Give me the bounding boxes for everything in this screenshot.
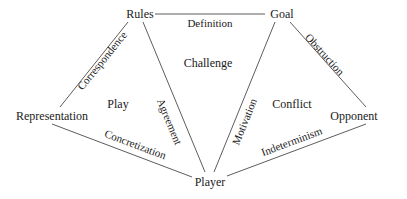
node-opponent: Opponent [330,109,378,123]
region-label-conflict: Conflict [272,97,312,111]
node-representation: Representation [16,109,88,123]
game-concepts-diagram: Rules Goal Representation Opponent Playe… [0,0,407,199]
edge-label-agreement: Agreement [155,97,185,147]
edge-player-opponent [227,124,366,176]
node-goal: Goal [270,7,294,21]
node-rules: Rules [126,7,154,21]
edge-label-motivation: Motivation [230,96,260,146]
region-label-play: Play [107,97,128,111]
node-player: Player [195,175,226,189]
edge-label-obstruction: Obstruction [303,31,347,78]
region-label-challenge: Challenge [184,56,233,70]
edge-label-definition: Definition [187,17,233,29]
edge-label-correspondence: Correspondence [75,29,129,92]
edge-label-indeterminism: Indeterminism [259,124,324,158]
edge-label-concretization: Concretization [103,127,168,161]
